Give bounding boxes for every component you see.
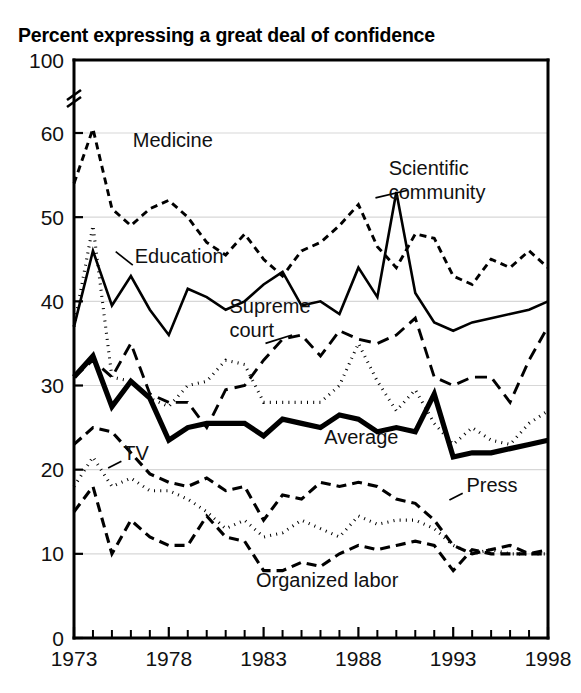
- series-label-organized-labor: Organized labor: [256, 569, 399, 591]
- chart-title: Percent expressing a great deal of confi…: [18, 24, 435, 46]
- series-label-medicine: Medicine: [133, 129, 213, 151]
- x-axis-tick-label: 1993: [430, 647, 477, 670]
- y-axis-tick-label: 20: [41, 458, 64, 481]
- series-label-education: Education: [135, 245, 224, 267]
- x-axis-tick-label: 1983: [240, 647, 287, 670]
- series-label-average: Average: [324, 426, 398, 448]
- y-axis-tick-label: 30: [41, 374, 64, 397]
- x-axis-tick-label: 1988: [335, 647, 382, 670]
- x-axis-tick-label: 1978: [145, 647, 192, 670]
- y-axis-tick-label: 40: [41, 290, 64, 313]
- confidence-line-chart: Percent expressing a great deal of confi…: [0, 0, 581, 693]
- x-axis-tick-label: 1998: [525, 647, 572, 670]
- y-axis-tick-label: 10: [41, 542, 64, 565]
- y-axis-tick-label: 50: [41, 206, 64, 229]
- series-label-tv: TV: [123, 442, 149, 464]
- chart-canvas: Percent expressing a great deal of confi…: [0, 0, 581, 693]
- y-axis-tick-label: 100: [29, 49, 64, 72]
- x-axis-tick-label: 1973: [51, 647, 98, 670]
- y-axis-tick-label: 60: [41, 122, 64, 145]
- series-label-press: Press: [466, 474, 517, 496]
